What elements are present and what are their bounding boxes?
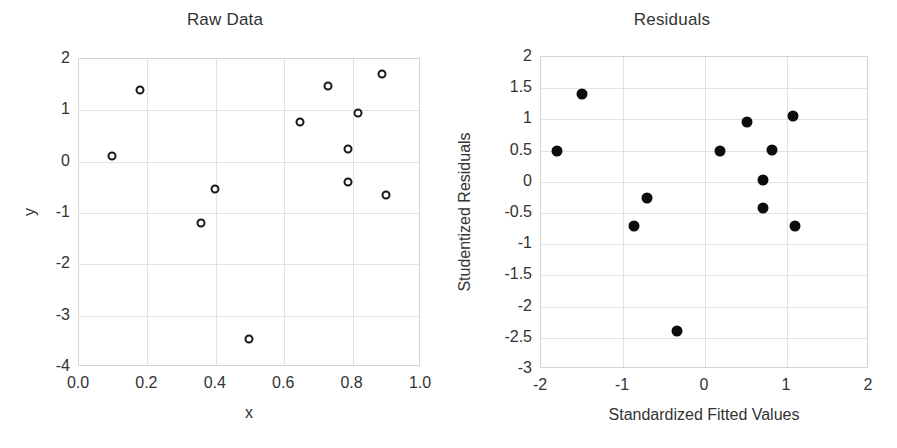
y-axis-tick-label: -1.5: [498, 265, 532, 283]
data-point-marker: [790, 220, 801, 231]
residuals-y-axis-title: Studentized Residuals: [456, 132, 474, 291]
data-point-marker: [296, 117, 305, 126]
data-point-marker: [381, 190, 390, 199]
data-point-marker: [642, 193, 653, 204]
x-axis-tick-label: 1: [782, 376, 791, 394]
y-axis-tick-label: 0: [498, 172, 532, 190]
residuals-x-axis-title: Standardized Fitted Values: [609, 406, 800, 424]
x-axis-tick-label: -1: [615, 376, 629, 394]
horizontal-gridline: [541, 307, 867, 308]
raw-data-title: Raw Data: [0, 10, 450, 30]
residuals-plot-area: [540, 56, 868, 368]
y-axis-tick-label: -0.5: [498, 203, 532, 221]
data-point-marker: [354, 109, 363, 118]
horizontal-gridline: [541, 213, 867, 214]
vertical-gridline: [284, 59, 285, 365]
data-point-marker: [344, 178, 353, 187]
data-point-marker: [715, 145, 726, 156]
y-axis-tick-label: 2: [498, 47, 532, 65]
y-axis-tick-label: -3: [46, 306, 70, 324]
data-point-marker: [787, 110, 798, 121]
vertical-gridline: [623, 57, 624, 367]
x-axis-tick-label: 1.0: [409, 374, 431, 392]
y-axis-tick-label: 0: [46, 152, 70, 170]
raw-data-x-axis-title: x: [245, 404, 253, 422]
data-point-marker: [378, 70, 387, 79]
data-point-marker: [552, 145, 563, 156]
data-point-marker: [245, 334, 254, 343]
vertical-gridline: [705, 57, 706, 367]
x-axis-tick-label: 0.0: [67, 374, 89, 392]
vertical-gridline: [353, 59, 354, 365]
y-axis-tick-label: -1: [498, 234, 532, 252]
y-axis-tick-label: -2.5: [498, 328, 532, 346]
data-point-marker: [742, 117, 753, 128]
horizontal-gridline: [79, 213, 419, 214]
data-point-marker: [135, 85, 144, 94]
data-point-marker: [758, 203, 769, 214]
horizontal-gridline: [79, 110, 419, 111]
y-axis-tick-label: 0.5: [498, 141, 532, 159]
vertical-gridline: [147, 59, 148, 365]
data-point-marker: [210, 184, 219, 193]
horizontal-gridline: [541, 244, 867, 245]
y-axis-tick-label: -4: [46, 357, 70, 375]
horizontal-gridline: [79, 264, 419, 265]
vertical-gridline: [216, 59, 217, 365]
x-axis-tick-label: 0.4: [204, 374, 226, 392]
data-point-marker: [108, 151, 117, 160]
horizontal-gridline: [541, 275, 867, 276]
horizontal-gridline: [541, 119, 867, 120]
y-axis-tick-label: 1: [46, 100, 70, 118]
y-axis-tick-label: -1: [46, 203, 70, 221]
raw-data-panel: Raw Data 210-1-2-3-4 0.00.20.40.60.81.0 …: [0, 0, 450, 448]
horizontal-gridline: [79, 316, 419, 317]
raw-data-plot-area: [78, 58, 420, 366]
vertical-gridline: [787, 57, 788, 367]
data-point-marker: [576, 89, 587, 100]
x-axis-tick-label: 0.8: [340, 374, 362, 392]
y-axis-tick-label: -2: [46, 254, 70, 272]
scatter-plot-figure: Raw Data 210-1-2-3-4 0.00.20.40.60.81.0 …: [0, 0, 897, 448]
raw-data-y-axis-title: y: [21, 208, 39, 216]
x-axis-tick-label: 2: [864, 376, 873, 394]
data-point-marker: [671, 325, 682, 336]
data-point-marker: [629, 221, 640, 232]
y-axis-tick-label: -3: [498, 359, 532, 377]
horizontal-gridline: [541, 182, 867, 183]
residuals-panel: Residuals 21.510.50-0.5-1-1.5-2-2.5-3 -2…: [447, 0, 897, 448]
horizontal-gridline: [541, 88, 867, 89]
x-axis-tick-label: 0: [700, 376, 709, 394]
horizontal-gridline: [541, 338, 867, 339]
y-axis-tick-label: 2: [46, 49, 70, 67]
horizontal-gridline: [541, 151, 867, 152]
data-point-marker: [197, 219, 206, 228]
data-point-marker: [323, 82, 332, 91]
horizontal-gridline: [79, 162, 419, 163]
y-axis-tick-label: 1: [498, 109, 532, 127]
data-point-marker: [767, 144, 778, 155]
x-axis-tick-label: -2: [533, 376, 547, 394]
data-point-marker: [758, 174, 769, 185]
residuals-title: Residuals: [447, 10, 897, 30]
y-axis-tick-label: -2: [498, 297, 532, 315]
data-point-marker: [344, 145, 353, 154]
x-axis-tick-label: 0.6: [272, 374, 294, 392]
x-axis-tick-label: 0.2: [135, 374, 157, 392]
y-axis-tick-label: 1.5: [498, 78, 532, 96]
